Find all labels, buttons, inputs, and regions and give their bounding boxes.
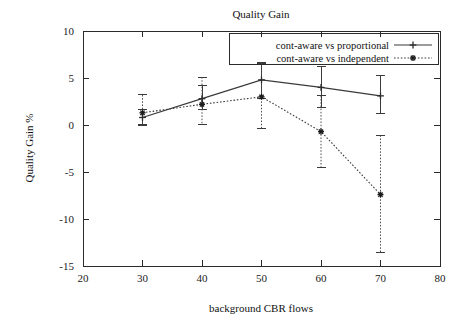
legend-label: cont-aware vs independent [276, 53, 389, 64]
x-axis-title: background CBR flows [209, 302, 313, 314]
chart-title: Quality Gain [232, 8, 290, 20]
quality-gain-chart: Quality Gain 1050-5-10-15 20304050607080… [0, 0, 462, 322]
y-tick-label: 5 [69, 72, 75, 84]
x-tick-label: 40 [197, 272, 209, 284]
y-tick-label: -15 [59, 260, 74, 272]
y-tick-label: 10 [63, 25, 75, 37]
legend-label: cont-aware vs proportional [276, 40, 389, 51]
y-tick-label: 0 [69, 119, 75, 131]
x-tick-label: 60 [316, 272, 328, 284]
legend: cont-aware vs proportionalcont-aware vs … [276, 40, 432, 64]
y-axis-title: Quality Gain % [23, 113, 35, 182]
chart-svg: Quality Gain 1050-5-10-15 20304050607080… [0, 0, 462, 322]
x-tick-label: 30 [137, 272, 149, 284]
x-tick-label: 50 [256, 272, 268, 284]
x-tick-label: 80 [435, 272, 447, 284]
y-tick-label: -5 [65, 166, 75, 178]
y-tick-label: -10 [59, 213, 74, 225]
data-point-markers [139, 76, 384, 197]
x-tick-label: 20 [78, 272, 90, 284]
x-tick-label: 70 [375, 272, 387, 284]
